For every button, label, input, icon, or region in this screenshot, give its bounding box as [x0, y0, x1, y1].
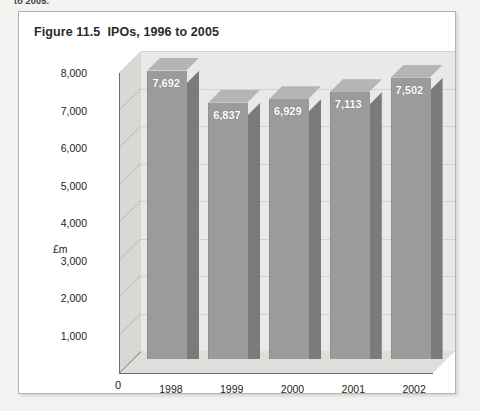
bar-column[interactable]: 7,692 [147, 71, 186, 359]
x-axis-tick-label: 2000 [281, 383, 304, 395]
gridline-depth [118, 313, 141, 336]
plot-area: 7,6926,8376,9297,1137,502 [119, 51, 455, 381]
bar-value-label: 6,837 [213, 109, 241, 121]
bar-value-label: 7,502 [396, 84, 424, 96]
bar-chart: £m 1,0002,0003,0004,0005,0006,0007,0008,… [19, 45, 455, 393]
gridline-depth [118, 163, 141, 186]
bar-front-face: 7,692 [147, 71, 187, 359]
bar-column[interactable]: 6,929 [269, 99, 308, 359]
y-axis-tick-label: 8,000 [29, 67, 87, 79]
bar-value-label: 7,113 [335, 98, 362, 110]
screenshot-page: to 2005. Figure 11.5IPOs, 1996 to 2005 £… [0, 0, 480, 411]
cropped-body-text: to 2005. [14, 0, 134, 6]
bar-value-label: 6,929 [274, 105, 302, 117]
y-axis-tick-label: 3,000 [29, 255, 87, 267]
bar-value-label: 7,692 [152, 77, 180, 89]
figure-caption: IPOs, 1996 to 2005 [107, 25, 219, 39]
bar-front-face: 6,929 [269, 99, 309, 359]
bar-front-face: 7,113 [330, 92, 370, 359]
bar-side-face [186, 71, 199, 359]
gridline-depth [118, 88, 141, 111]
y-axis-tick-label: 4,000 [29, 217, 87, 229]
y-axis-tick-label: 6,000 [29, 142, 87, 154]
y-axis-line [119, 73, 120, 373]
gridline-depth [118, 238, 141, 261]
figure-title: Figure 11.5IPOs, 1996 to 2005 [34, 25, 219, 39]
chart-left-wall [119, 51, 141, 373]
y-axis-tick-label: 5,000 [29, 180, 87, 192]
bar-column[interactable]: 7,113 [330, 92, 369, 359]
gridline-depth [118, 126, 141, 149]
y-axis-tick-label: 1,000 [29, 330, 87, 342]
gridline-depth [118, 201, 141, 224]
bar-column[interactable]: 6,837 [208, 103, 247, 359]
x-axis-tick-label: 1998 [159, 383, 182, 395]
bar-column[interactable]: 7,502 [391, 78, 430, 359]
bar-side-face [430, 78, 443, 359]
gridline [141, 51, 455, 52]
x-axis-tick-label: 1999 [220, 383, 243, 395]
figure-panel: Figure 11.5IPOs, 1996 to 2005 £m 1,0002,… [18, 11, 456, 394]
x-axis-tick-label: 2001 [342, 383, 365, 395]
x-axis-line [119, 373, 433, 374]
gridline-depth [118, 276, 141, 299]
bar-front-face: 7,502 [391, 78, 431, 359]
bar-front-face: 6,837 [208, 103, 248, 359]
y-axis-tick-labels: 1,0002,0003,0004,0005,0006,0007,0008,000 [29, 45, 87, 393]
y-axis-tick-label: 7,000 [29, 105, 87, 117]
bar-side-face [369, 92, 382, 359]
y-axis-tick-label: 2,000 [29, 292, 87, 304]
bar-side-face [247, 103, 260, 359]
bar-side-face [308, 99, 321, 359]
figure-number: Figure 11.5 [34, 25, 100, 39]
gridline-depth [118, 51, 141, 74]
x-axis-tick-label: 2002 [402, 383, 425, 395]
